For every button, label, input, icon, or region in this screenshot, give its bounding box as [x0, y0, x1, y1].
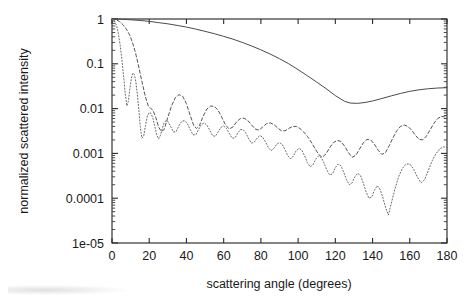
x-tick-label: 100 — [288, 249, 309, 263]
y-tick-label: 0.001 — [73, 147, 104, 161]
x-tick-label: 40 — [179, 249, 193, 263]
y-tick-label: 0.0001 — [66, 192, 104, 206]
y-axis-tick-labels: 10.10.010.0010.00011e-05 — [66, 13, 104, 251]
scattering-plot: 020406080100120140160180 10.10.010.0010.… — [0, 0, 473, 297]
x-tick-label: 180 — [437, 249, 458, 263]
x-tick-label: 120 — [325, 249, 346, 263]
curve-dashed — [112, 19, 447, 157]
y-tick-label: 0.1 — [87, 57, 104, 71]
x-tick-label: 140 — [362, 249, 383, 263]
x-axis-tick-labels: 020406080100120140160180 — [109, 249, 458, 263]
x-tick-label: 160 — [399, 249, 420, 263]
curve-dotted — [112, 19, 447, 215]
curve-solid — [112, 19, 447, 103]
x-tick-label: 60 — [217, 249, 231, 263]
x-axis-label: scattering angle (degrees) — [206, 277, 351, 291]
x-tick-label: 20 — [142, 249, 156, 263]
y-tick-label: 1e-05 — [72, 237, 104, 251]
x-tick-label: 80 — [254, 249, 268, 263]
data-curves — [112, 19, 447, 215]
y-axis-label: normalized scattered intensity — [17, 48, 31, 214]
y-tick-label: 0.01 — [80, 102, 104, 116]
x-tick-label: 0 — [109, 249, 116, 263]
y-tick-label: 1 — [97, 13, 104, 27]
scattering-intensity-figure: 020406080100120140160180 10.10.010.0010.… — [0, 0, 473, 297]
